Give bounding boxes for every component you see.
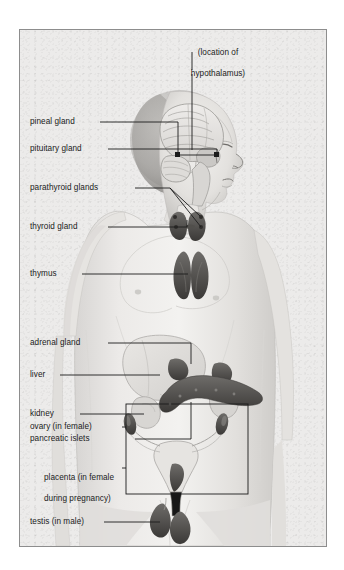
pituitary-marker — [214, 152, 219, 157]
label-ovary: ovary (in female) — [30, 422, 92, 432]
caption-line-1: (location of — [198, 48, 239, 57]
label-placenta-line-1: placenta (in female — [44, 473, 114, 482]
label-thymus: thymus — [30, 269, 57, 279]
endocrine-system-figure: (location of hypothalamus) pineal gland … — [0, 0, 344, 570]
label-thyroid-gland: thyroid gland — [30, 222, 78, 232]
label-adrenal-gland: adrenal gland — [30, 338, 80, 348]
label-pineal-gland: pineal gland — [30, 117, 75, 127]
label-parathyroid-glands: parathyroid glands — [30, 183, 98, 193]
caption-hypothalamus: (location of hypothalamus) — [156, 38, 266, 90]
label-placenta: placenta (in female during pregnancy) — [30, 463, 114, 515]
caption-line-2: hypothalamus) — [191, 69, 245, 78]
label-pancreatic-islets: pancreatic islets — [30, 434, 90, 444]
label-kidney: kidney — [30, 409, 54, 419]
label-liver: liver — [30, 370, 45, 380]
label-testis: testis (in male) — [30, 517, 84, 527]
pineal-marker — [175, 152, 180, 157]
figure-frame: (location of hypothalamus) pineal gland … — [19, 29, 327, 547]
label-pituitary-gland: pituitary gland — [30, 144, 82, 154]
label-placenta-line-2: during pregnancy) — [44, 494, 111, 503]
